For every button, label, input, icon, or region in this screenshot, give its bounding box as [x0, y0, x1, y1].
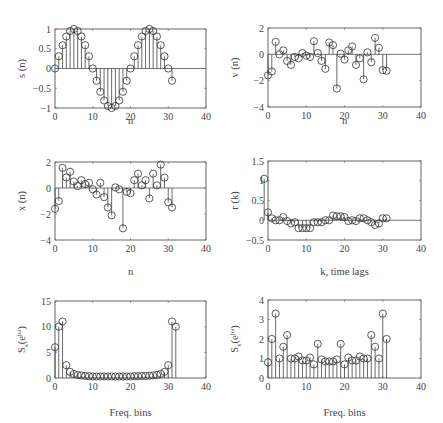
x-tick-label: 10	[301, 110, 311, 121]
x-tick-label: 30	[378, 381, 388, 392]
x-tick-label: 30	[163, 381, 173, 392]
y-tick-label: −4	[253, 102, 264, 113]
x-tick-label: 10	[88, 111, 98, 122]
y-axis-label: Ss(ejω)	[15, 326, 30, 353]
x-axis-label: Freq. bins	[110, 407, 152, 418]
y-tick-label: 1	[46, 24, 51, 35]
x-tick-label: 0	[266, 110, 271, 121]
x-tick-label: 40	[201, 243, 211, 254]
x-axis-label: k, time lags	[320, 266, 369, 277]
y-tick-label: 2	[46, 157, 51, 168]
x-axis-label: n	[128, 115, 134, 126]
x-tick-label: 30	[378, 110, 388, 121]
x-axis-label: Freq. bins	[324, 407, 366, 418]
y-axis-label: v (n)	[229, 57, 241, 78]
x-tick-label: 10	[88, 381, 98, 392]
y-tick-label: −4	[40, 235, 51, 246]
subplot-r: 010203040−0.500.511.5k, time lagsr (k)	[229, 156, 426, 278]
x-tick-label: 40	[201, 381, 211, 392]
y-axis-label: s (n)	[16, 59, 28, 78]
y-tick-label: 15	[41, 296, 51, 307]
subplot-Ss: 010203040051015Freq. binsSs(ejω)	[15, 296, 211, 419]
y-axis-label: Sx(ejω)	[228, 325, 243, 353]
y-tick-label: 5	[46, 347, 51, 358]
y-tick-label: 0	[46, 373, 51, 384]
y-tick-label: 0.5	[39, 43, 52, 54]
x-tick-label: 20	[126, 381, 136, 392]
y-tick-label: 1.5	[252, 156, 265, 167]
y-tick-label: −2	[40, 209, 51, 220]
y-tick-label: 2	[259, 334, 264, 345]
y-tick-label: −0.5	[33, 83, 51, 94]
y-tick-label: 0	[259, 215, 264, 226]
subplot-x: 010203040−4−202nx (n)	[16, 157, 211, 278]
y-tick-label: 0	[259, 49, 264, 60]
axes-frame	[55, 301, 206, 378]
x-tick-label: 40	[201, 111, 211, 122]
y-tick-label: 0	[259, 373, 264, 384]
x-axis-label: n	[128, 266, 134, 277]
axes-frame	[268, 28, 421, 107]
x-tick-label: 40	[416, 381, 426, 392]
axes-frame	[55, 162, 206, 240]
subplot-Sx: 01020304001234Freq. binsSx(ejω)	[228, 295, 426, 419]
y-tick-label: 4	[259, 295, 264, 306]
y-tick-label: 3	[259, 314, 264, 325]
x-tick-label: 40	[416, 110, 426, 121]
y-tick-label: −1	[40, 103, 51, 114]
y-tick-label: −0.5	[246, 235, 264, 246]
x-tick-label: 40	[416, 243, 426, 254]
subplot-s: 010203040−1−0.500.51ns (n)	[16, 24, 211, 127]
x-tick-label: 0	[266, 381, 271, 392]
y-tick-label: 0	[46, 63, 51, 74]
x-tick-label: 30	[378, 243, 388, 254]
y-tick-label: 0.5	[252, 195, 265, 206]
x-tick-label: 10	[301, 243, 311, 254]
y-tick-label: 2	[259, 23, 264, 34]
x-tick-label: 30	[163, 111, 173, 122]
x-tick-label: 20	[126, 243, 136, 254]
x-tick-label: 10	[88, 243, 98, 254]
figure: 010203040−1−0.500.51ns (n)010203040−4−20…	[0, 0, 443, 423]
x-tick-label: 30	[163, 243, 173, 254]
x-tick-label: 0	[53, 111, 58, 122]
x-tick-label: 10	[301, 381, 311, 392]
y-tick-label: 1	[259, 353, 264, 364]
x-tick-label: 0	[53, 381, 58, 392]
axes-frame	[268, 161, 421, 240]
x-tick-label: 0	[53, 243, 58, 254]
y-tick-label: 0	[46, 183, 51, 194]
x-tick-label: 20	[340, 381, 350, 392]
x-tick-label: 20	[340, 243, 350, 254]
x-axis-label: n	[342, 115, 348, 126]
x-tick-label: 0	[266, 243, 271, 254]
y-tick-label: −2	[253, 75, 264, 86]
subplot-v: 010203040−4−202nv (n)	[229, 23, 426, 127]
y-tick-label: 10	[41, 321, 51, 332]
y-axis-label: x (n)	[16, 190, 28, 211]
y-axis-label: r (k)	[229, 191, 241, 210]
